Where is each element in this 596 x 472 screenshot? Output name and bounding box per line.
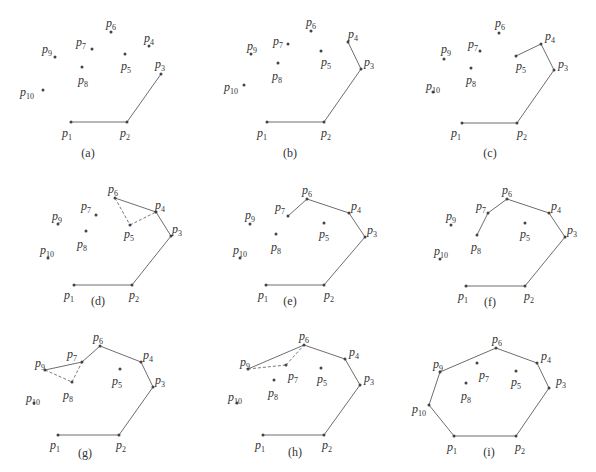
point-label-p6: p6 bbox=[301, 183, 312, 199]
hull-edge-p4-p6 bbox=[100, 346, 141, 362]
hull-edge-p4-p6 bbox=[115, 198, 156, 212]
point-label-p5: p5 bbox=[316, 372, 327, 388]
hull-edge-p3-p4 bbox=[348, 42, 361, 69]
point-label-p6: p6 bbox=[491, 332, 502, 348]
hull-edge-p2-p3 bbox=[525, 237, 565, 286]
point-p5 bbox=[119, 368, 122, 371]
point-label-p4: p4 bbox=[544, 29, 555, 45]
point-label-p4: p4 bbox=[154, 198, 165, 214]
point-label-p10: p10 bbox=[232, 243, 247, 259]
point-p2 bbox=[516, 122, 519, 125]
point-label-p8: p8 bbox=[267, 386, 278, 402]
panel-e: p1p2p3p4p5p6p7p8p9p10(e) bbox=[232, 183, 377, 308]
point-p8 bbox=[81, 66, 84, 69]
point-label-p3: p3 bbox=[154, 373, 165, 389]
point-label-p4: p4 bbox=[540, 349, 551, 365]
panel-caption: (i) bbox=[483, 445, 494, 459]
hull-edge-p3-p4 bbox=[549, 213, 565, 237]
hull-edge-p3-p4 bbox=[345, 359, 360, 385]
hull-edge-p3-p4 bbox=[541, 44, 554, 70]
panel-caption: (a) bbox=[81, 146, 94, 160]
point-p2 bbox=[524, 285, 527, 288]
panel-i: p1p2p3p4p5p6p7p8p9p10(i) bbox=[411, 332, 566, 459]
point-label-p8: p8 bbox=[270, 240, 281, 256]
hull-edge-p2-p3 bbox=[132, 236, 171, 285]
convex-hull-figure: p1p2p3p4p5p6p7p8p9p10(a)p1p2p3p4p5p6p7p8… bbox=[0, 0, 596, 472]
hull-edge-p4-p6 bbox=[507, 199, 549, 213]
point-label-p2: p2 bbox=[119, 126, 130, 142]
point-label-p9: p9 bbox=[440, 42, 451, 58]
point-label-p9: p9 bbox=[246, 39, 257, 55]
point-label-p10: p10 bbox=[433, 244, 448, 260]
point-label-p2: p2 bbox=[128, 288, 139, 304]
point-label-p10: p10 bbox=[227, 390, 242, 406]
point-label-p2: p2 bbox=[514, 440, 525, 456]
hull-edge-p2-p3 bbox=[517, 70, 554, 123]
point-p7 bbox=[81, 361, 84, 364]
hull-edge-p2-p3 bbox=[324, 69, 361, 122]
point-label-p1: p1 bbox=[457, 289, 468, 305]
point-label-p10: p10 bbox=[223, 80, 238, 96]
point-p7 bbox=[91, 48, 94, 51]
hull-edge-p2-p3 bbox=[119, 387, 153, 435]
point-p5 bbox=[323, 222, 326, 225]
point-p7 bbox=[487, 212, 490, 215]
point-label-p9: p9 bbox=[34, 356, 45, 372]
point-p3 bbox=[548, 387, 551, 390]
point-p4 bbox=[540, 43, 543, 46]
panel-caption: (g) bbox=[78, 446, 92, 460]
candidate-edge-p9-p8 bbox=[45, 370, 72, 382]
point-label-p8: p8 bbox=[460, 389, 471, 405]
hull-edge-p3-p4 bbox=[349, 213, 365, 237]
point-label-p8: p8 bbox=[271, 69, 282, 85]
point-label-p2: p2 bbox=[523, 289, 534, 305]
hull-edge-p2-p3 bbox=[127, 74, 161, 122]
point-label-p5: p5 bbox=[510, 375, 521, 391]
panel-g: p1p2p3p4p5p6p7p8p9p10(g) bbox=[25, 330, 165, 460]
hull-edge-p2-p3 bbox=[324, 237, 365, 285]
point-label-p8: p8 bbox=[470, 240, 481, 256]
point-label-p6: p6 bbox=[107, 182, 118, 198]
point-p2 bbox=[131, 284, 134, 287]
point-p1 bbox=[461, 122, 464, 125]
point-label-p7: p7 bbox=[75, 35, 86, 51]
hull-edge-p2-p3 bbox=[516, 388, 549, 436]
point-label-p4: p4 bbox=[142, 348, 153, 364]
hull-edge-p4-p6 bbox=[304, 345, 345, 359]
point-label-p7: p7 bbox=[478, 368, 489, 384]
point-p3 bbox=[360, 68, 363, 71]
hull-edge-p9-p10 bbox=[429, 372, 440, 405]
hull-edge-p2-p3 bbox=[324, 385, 360, 435]
point-label-p7: p7 bbox=[467, 37, 478, 53]
point-p5 bbox=[124, 53, 127, 56]
point-label-p1: p1 bbox=[254, 438, 265, 454]
hull-edge-p3-p4 bbox=[141, 362, 153, 387]
candidate-edge-p5-p4 bbox=[130, 212, 156, 225]
point-label-p2: p2 bbox=[115, 438, 126, 454]
point-label-p5: p5 bbox=[515, 59, 526, 75]
point-p8 bbox=[273, 379, 276, 382]
point-label-p6: p6 bbox=[298, 329, 309, 345]
point-p10 bbox=[42, 89, 45, 92]
point-p1 bbox=[266, 121, 269, 124]
point-label-p6: p6 bbox=[305, 15, 316, 31]
point-label-p5: p5 bbox=[111, 374, 122, 390]
point-label-p9: p9 bbox=[41, 42, 52, 58]
point-label-p8: p8 bbox=[465, 73, 476, 89]
point-p1 bbox=[73, 284, 76, 287]
panel-caption: (c) bbox=[483, 146, 496, 160]
point-p5 bbox=[515, 55, 518, 58]
point-p7 bbox=[287, 43, 290, 46]
point-p1 bbox=[465, 285, 468, 288]
point-label-p3: p3 bbox=[366, 223, 377, 239]
panel-caption: (d) bbox=[91, 294, 105, 308]
hull-edge-p6-p9 bbox=[248, 345, 304, 369]
point-label-p9: p9 bbox=[445, 209, 456, 225]
point-label-p4: p4 bbox=[143, 31, 154, 47]
point-p2 bbox=[323, 121, 326, 124]
point-p5 bbox=[515, 370, 518, 373]
point-label-p10: p10 bbox=[39, 243, 54, 259]
point-p5 bbox=[320, 367, 323, 370]
point-p2 bbox=[515, 435, 518, 438]
panel-caption: (e) bbox=[283, 294, 296, 308]
